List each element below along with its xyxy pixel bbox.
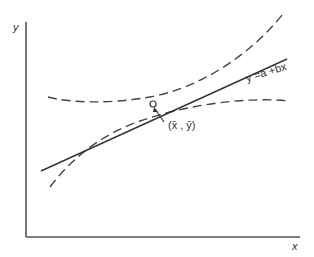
mean-point-label: (x̄ , ȳ) bbox=[168, 119, 196, 131]
mean-point-marker bbox=[150, 101, 156, 107]
y-axis-label: y bbox=[12, 21, 20, 33]
x-axis-label: x bbox=[291, 240, 298, 252]
upper-confidence-band bbox=[48, 14, 283, 102]
regression-diagram: y x y =a +bx (x̄ , ȳ) bbox=[0, 0, 314, 257]
line-equation-label: y =a +bx bbox=[244, 60, 288, 84]
arrowhead-icon bbox=[153, 107, 158, 112]
